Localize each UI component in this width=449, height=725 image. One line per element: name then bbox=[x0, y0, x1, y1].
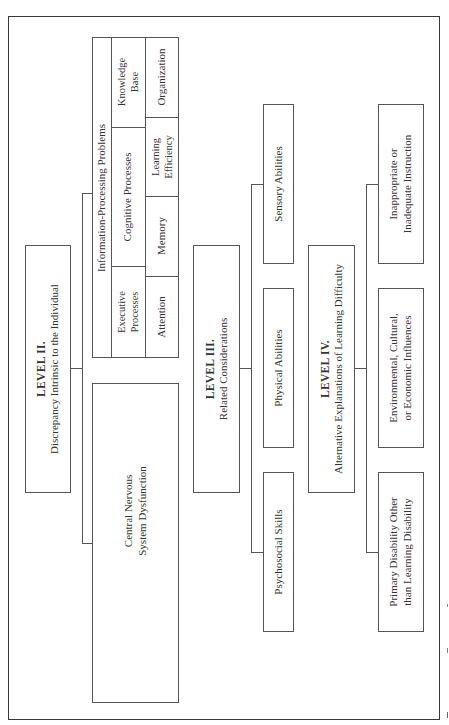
level2-subtitle: Discrepancy Intrinsic to the Individual bbox=[48, 284, 62, 454]
cell-organization: Organization bbox=[145, 37, 179, 117]
level4-bracket-top bbox=[366, 184, 378, 185]
level3-bracket-bottom bbox=[251, 552, 263, 553]
level4-box: LEVEL IV. Alternative Explanations of Le… bbox=[308, 245, 355, 493]
level2-bracket bbox=[82, 193, 83, 544]
psychosocial-skills-box: Psychosocial Skills bbox=[263, 472, 294, 632]
info-processing-title-cell: Information-Processing Problems bbox=[92, 37, 111, 358]
cell-cognitive-processes: Cognitive Processes bbox=[111, 127, 145, 266]
level3-subtitle: Related Considerations bbox=[217, 318, 231, 420]
level4-subtitle: Alternative Explanations of Learning Dif… bbox=[332, 264, 346, 474]
page-edge-mark bbox=[447, 648, 448, 653]
level3-bracket-top bbox=[251, 184, 263, 185]
level4-bracket-bottom bbox=[366, 552, 378, 553]
primary-disability-box: Primary Disability Other than Learning D… bbox=[378, 472, 424, 632]
page-edge-mark bbox=[447, 712, 448, 718]
level2-bracket-top bbox=[82, 193, 92, 194]
level2-bracket-bottom bbox=[82, 543, 92, 544]
physical-abilities-box: Physical Abilities bbox=[263, 288, 294, 448]
level3-bracket bbox=[251, 184, 252, 553]
info-processing-title: Information-Processing Problems bbox=[95, 123, 109, 271]
environmental-influences-box: Environmental, Cultural, or Economic Inf… bbox=[378, 288, 424, 448]
sensory-abilities-box: Sensory Abilities bbox=[263, 104, 294, 264]
inadequate-instruction-box: Inappropriate or Inadequate Instruction bbox=[378, 104, 424, 264]
cell-memory: Memory bbox=[145, 196, 179, 276]
cell-learning-efficiency: Learning Efficiency bbox=[145, 117, 179, 196]
cell-knowledge-base: Knowledge Base bbox=[111, 37, 145, 127]
cns-box: Central Nervous System Dysfunction bbox=[92, 383, 179, 703]
cell-attention: Attention bbox=[145, 276, 179, 358]
cell-executive-processes: Executive Processes bbox=[111, 266, 145, 358]
level4-title: LEVEL IV. bbox=[317, 264, 331, 474]
page-edge-mark bbox=[447, 604, 448, 607]
level2-box: LEVEL II. Discrepancy Intrinsic to the I… bbox=[25, 245, 71, 493]
level2-title: LEVEL II. bbox=[34, 284, 48, 454]
level3-box: LEVEL III. Related Considerations bbox=[193, 245, 240, 493]
level4-bracket bbox=[366, 184, 367, 553]
level3-title: LEVEL III. bbox=[202, 318, 216, 420]
